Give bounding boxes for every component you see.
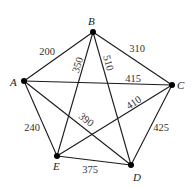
edge-weight-e-d: 375	[82, 164, 98, 175]
edge-a-e	[24, 81, 57, 156]
vertex-label-a: A	[9, 76, 17, 88]
vertex-label-d: D	[132, 171, 141, 183]
vertex-a-dot-icon	[21, 78, 27, 84]
vertex-labels-group: ABCDE	[9, 15, 185, 183]
vertex-label-e: E	[52, 160, 60, 172]
vertex-label-c: C	[177, 79, 185, 91]
edge-weight-e-c: 410	[124, 94, 143, 112]
vertex-b-dot-icon	[90, 29, 96, 35]
vertex-e-dot-icon	[54, 153, 60, 159]
edge-a-d	[24, 81, 131, 165]
edge-weight-a-d: 390	[77, 110, 96, 128]
edge-weight-b-e: 350	[70, 56, 85, 74]
vertex-label-b: B	[88, 15, 95, 27]
edge-weight-a-e: 240	[24, 122, 40, 133]
edge-a-b	[24, 32, 93, 81]
edge-weights-group: 200310350510415410390240425375	[24, 43, 169, 175]
weighted-graph-diagram: 200310350510415410390240425375 ABCDE	[0, 0, 193, 187]
edge-b-d	[93, 32, 131, 165]
edge-a-c	[24, 81, 172, 85]
edge-weight-a-b: 200	[39, 46, 55, 57]
edge-weight-b-c: 310	[129, 43, 145, 54]
edge-weight-c-d: 425	[153, 122, 169, 133]
vertex-c-dot-icon	[169, 82, 175, 88]
edge-weight-a-c: 415	[125, 73, 141, 84]
vertex-d-dot-icon	[128, 162, 134, 168]
